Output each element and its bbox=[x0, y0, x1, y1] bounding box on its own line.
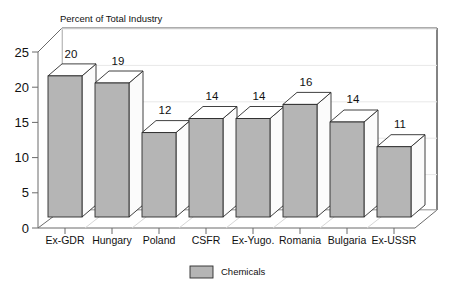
bar-front-face bbox=[189, 119, 223, 218]
bar-front-face bbox=[48, 76, 82, 217]
bar-front-face bbox=[377, 147, 411, 217]
bar-side-face bbox=[411, 135, 425, 217]
y-tick-label: 0 bbox=[22, 221, 29, 236]
category-label-csfr: CSFR bbox=[192, 234, 221, 246]
bar-chart: 0 5 10 15 20 25 20 19 bbox=[0, 0, 453, 289]
bar-side-face bbox=[176, 121, 190, 217]
bar-front-face bbox=[142, 133, 176, 217]
bar-value-label: 11 bbox=[394, 118, 406, 130]
bar-side-face bbox=[82, 64, 96, 217]
bar-value-label: 16 bbox=[300, 76, 313, 88]
value-axis-ticks bbox=[32, 52, 38, 228]
y-tick-label: 5 bbox=[22, 185, 29, 200]
category-axis-labels: Ex-GDR Hungary Poland CSFR Ex-Yugo. Roma… bbox=[45, 234, 416, 246]
bar-front-face bbox=[330, 122, 364, 217]
bar-side-face bbox=[317, 92, 331, 217]
y-tick-label: 10 bbox=[15, 150, 29, 165]
category-label-hungary: Hungary bbox=[92, 234, 132, 246]
bar-value-label: 14 bbox=[206, 90, 219, 102]
bar-front-face bbox=[95, 83, 129, 217]
bar-side-face bbox=[364, 110, 378, 217]
y-tick-label: 15 bbox=[15, 115, 29, 130]
category-label-ex-gdr: Ex-GDR bbox=[45, 234, 85, 246]
category-label-ex-yugo: Ex-Yugo. bbox=[232, 234, 275, 246]
y-tick-label: 25 bbox=[15, 45, 29, 60]
bar-value-label: 14 bbox=[253, 90, 266, 102]
bar-value-label: 20 bbox=[65, 48, 78, 60]
bar-hungary[interactable]: 19 bbox=[95, 55, 143, 217]
chart-title: Percent of Total Industry bbox=[60, 13, 163, 24]
bar-side-face bbox=[270, 107, 284, 218]
bar-side-face bbox=[223, 107, 237, 218]
category-label-bulgaria: Bulgaria bbox=[328, 234, 367, 246]
bar-front-face bbox=[236, 119, 270, 218]
y-tick-label: 20 bbox=[15, 80, 29, 95]
legend-label-chemicals: Chemicals bbox=[221, 266, 266, 277]
category-label-ex-ussr: Ex-USSR bbox=[372, 234, 417, 246]
bar-front-face bbox=[283, 104, 317, 217]
legend-swatch-chemicals bbox=[190, 266, 213, 278]
bar-value-label: 19 bbox=[112, 55, 125, 67]
legend: Chemicals bbox=[190, 266, 266, 278]
bar-ex-gdr[interactable]: 20 bbox=[48, 48, 96, 217]
bar-value-label: 14 bbox=[347, 93, 360, 105]
bar-value-label: 12 bbox=[159, 104, 172, 116]
value-axis-labels: 0 5 10 15 20 25 bbox=[15, 45, 29, 236]
bar-side-face bbox=[129, 71, 143, 217]
category-label-poland: Poland bbox=[143, 234, 176, 246]
category-label-romania: Romania bbox=[279, 234, 321, 246]
chart-container: 0 5 10 15 20 25 20 19 bbox=[0, 0, 453, 289]
